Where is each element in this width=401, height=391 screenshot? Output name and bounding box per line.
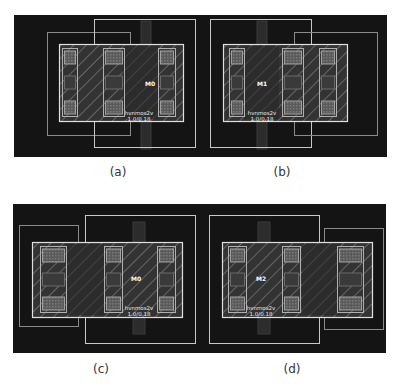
- contact-cut: [340, 297, 362, 310]
- caption-d: (d): [284, 362, 301, 376]
- instance-label: M2: [256, 275, 266, 282]
- contact-cut: [231, 297, 245, 310]
- contact-column: [283, 247, 301, 313]
- contact-column: [229, 247, 247, 313]
- contact-cut: [285, 297, 299, 310]
- contact-column: [338, 247, 364, 313]
- device-size-label: 1.0/0.18: [250, 311, 273, 317]
- contact-cut: [340, 249, 362, 262]
- contact-cut: [231, 249, 245, 262]
- panel-d-layout: M2hvnmos2v1.0/0.18: [0, 0, 401, 391]
- gate-region: [302, 244, 340, 315]
- contact-cut: [285, 249, 299, 262]
